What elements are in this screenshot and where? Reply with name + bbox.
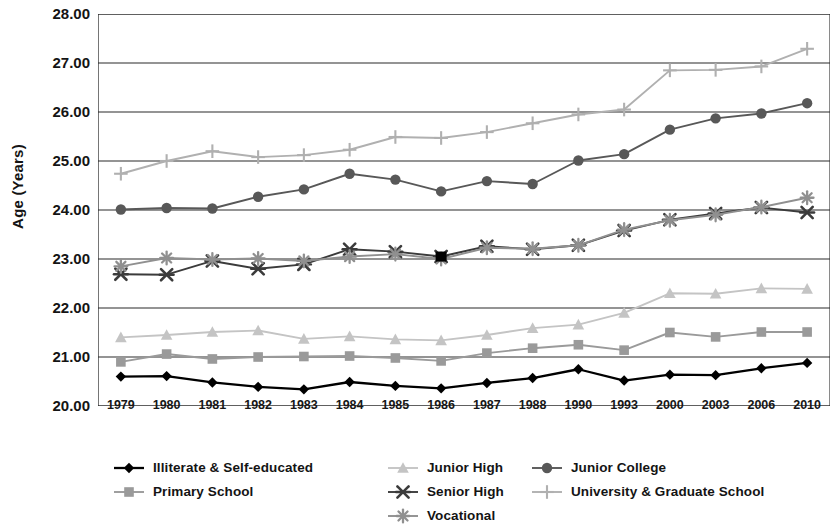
series-illiterate-self-educated (116, 358, 813, 395)
y-tick-label: 25.00 (18, 152, 90, 169)
circle-marker-icon (530, 460, 564, 476)
legend-column-1: Junior HighSenior HighVocational (386, 456, 504, 527)
y-tick-label: 27.00 (18, 54, 90, 71)
legend-item[interactable]: Junior College (530, 456, 764, 479)
triangle-marker-icon (386, 460, 420, 476)
plus-marker-icon (530, 484, 564, 500)
series-junior-college (116, 98, 813, 215)
legend-item[interactable]: Senior High (386, 480, 504, 503)
legend-label: University & Graduate School (571, 484, 764, 499)
diamond-marker-icon (112, 460, 146, 476)
y-tick-label: 24.00 (18, 201, 90, 218)
legend-item[interactable]: University & Graduate School (530, 480, 764, 503)
asterisk-marker-icon (386, 508, 420, 524)
legend-label: Junior High (427, 460, 503, 475)
legend-item[interactable]: Vocational (386, 504, 504, 527)
y-tick-label: 23.00 (18, 250, 90, 267)
legend-label: Illiterate & Self-educated (153, 460, 313, 475)
line-chart: Age (Years) 28.0027.0026.0025.0024.0023.… (0, 0, 832, 527)
legend-item[interactable]: Primary School (112, 480, 313, 503)
chart-legend: Illiterate & Self-educatedPrimary School… (112, 456, 822, 522)
legend-column-0: Illiterate & Self-educatedPrimary School (112, 456, 313, 504)
cross-x-marker-icon (386, 484, 420, 500)
y-tick-label: 28.00 (18, 5, 90, 22)
legend-item[interactable]: Junior High (386, 456, 504, 479)
legend-label: Vocational (427, 508, 495, 523)
x-tick-label-2010: 2010 (780, 398, 832, 412)
series-senior-high (114, 202, 814, 280)
legend-label: Senior High (427, 484, 504, 499)
legend-label: Junior College (571, 460, 666, 475)
annotation-highlighted-point (436, 252, 447, 262)
legend-label: Primary School (153, 484, 253, 499)
y-tick-label: 22.00 (18, 299, 90, 316)
plot-area (98, 14, 830, 406)
y-tick-label: 20.00 (18, 397, 90, 414)
square-marker-icon (112, 484, 146, 500)
legend-item[interactable]: Illiterate & Self-educated (112, 456, 313, 479)
series-primary-school (116, 327, 812, 366)
y-tick-label: 21.00 (18, 348, 90, 365)
legend-column-2: Junior CollegeUniversity & Graduate Scho… (530, 456, 764, 504)
y-tick-label: 26.00 (18, 103, 90, 120)
plot-canvas (98, 14, 830, 406)
